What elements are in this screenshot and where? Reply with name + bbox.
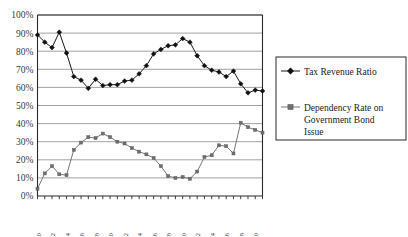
data-point-marker [123,142,126,145]
chart-container: 100%90%80%70%60%50%40%30%20%10%0% 197019… [0,0,408,236]
y-axis-tick-label: 70% [16,65,34,75]
data-point-marker [167,175,170,178]
x-axis-tick-label: 1974 [64,233,72,237]
data-point-marker [217,144,220,147]
legend-item-label[interactable]: Issue [304,127,324,137]
data-point-marker [203,156,206,159]
data-point-marker [174,176,177,179]
gridlines-group [38,15,263,178]
x-axis-tick-label: 1996 [223,233,231,237]
y-axis-tick-label: 40% [16,119,34,129]
data-point-marker [101,132,104,135]
data-point-marker [260,89,265,94]
data-point-marker [58,173,61,176]
data-point-marker [115,82,120,87]
x-axis-tick-label: 1998 [238,233,246,237]
legend-item-label[interactable]: Dependency Rate on [304,103,383,113]
data-point-marker [181,175,184,178]
data-point-marker [188,177,191,180]
data-point-marker [209,68,214,73]
y-axis-tick-label: 60% [16,83,34,93]
data-point-marker [87,136,90,139]
x-axis-tick-label: 1976 [78,233,86,237]
chart-svg: 100%90%80%70%60%50%40%30%20%10%0% 197019… [0,0,408,236]
tax-revenue-polyline [38,32,263,93]
x-axis-tick-label: 1992 [194,233,202,237]
data-point-marker [109,136,112,139]
x-axis-tick-label: 1980 [107,233,115,237]
y-axis-tick-label: 10% [16,173,34,183]
data-point-marker [253,88,258,93]
data-point-marker [80,141,83,144]
y-axis-tick-label: 30% [16,137,34,147]
legend-item-label[interactable]: Tax Revenue Ratio [304,67,377,77]
x-axis-tick-label: 1982 [122,233,130,237]
data-point-marker [246,126,249,129]
y-axis-tick-label: 80% [16,47,34,57]
legend-item-label[interactable]: Government Bond [304,115,375,125]
y-axis-tick-labels: 100%90%80%70%60%50%40%30%20%10%0% [11,10,33,201]
data-point-marker [36,187,39,190]
data-point-marker [145,153,148,156]
data-point-marker [210,154,213,157]
x-axis-tick-label: 1990 [180,233,188,237]
series-tax-revenue-line [38,32,263,93]
data-point-marker [261,131,264,134]
x-axis-tick-label: 1994 [209,233,217,237]
data-point-marker [159,165,162,168]
x-axis-tick-label: 1984 [136,233,144,237]
data-point-marker [57,30,62,35]
data-point-marker [217,70,222,75]
x-axis-tick-label: 1970 [35,233,43,237]
x-axis-tick-labels: 1970197219741976197819801982198419861988… [35,233,261,237]
data-point-marker [65,174,68,177]
data-point-marker [94,137,97,140]
data-point-marker [166,43,171,48]
data-point-marker [188,40,193,45]
x-axis-tick-label: 2000 [252,233,260,237]
data-point-marker [239,121,242,124]
data-point-marker [122,79,127,84]
data-point-marker [196,170,199,173]
data-point-marker [116,140,119,143]
y-axis-tick-label: 20% [16,155,34,165]
x-axis-tick-label: 1978 [93,233,101,237]
data-point-marker [151,52,156,57]
x-axis-tick-label: 1986 [151,233,159,237]
data-point-marker [138,150,141,153]
data-point-marker [51,165,54,168]
data-point-marker [152,156,155,159]
square-marker-icon [288,104,293,109]
dependency-rate-polyline [38,123,263,189]
chart-legend: Tax Revenue RatioDependency Rate onGover… [276,57,406,140]
series-dependency-rate-line [38,123,263,189]
data-point-marker [232,152,235,155]
data-point-marker [130,147,133,150]
y-axis-tick-label: 0% [21,191,34,201]
data-point-marker [108,82,113,87]
y-axis-tick-label: 100% [11,10,33,20]
data-point-marker [71,74,76,79]
data-point-marker [254,128,257,131]
data-point-marker [225,145,228,148]
x-axis-tick-label: 1988 [165,233,173,237]
data-point-marker [72,148,75,151]
data-point-marker [43,172,46,175]
y-axis-tick-label: 50% [16,101,34,111]
y-axis-tick-label: 90% [16,29,34,39]
x-axis-tick-label: 1972 [49,233,57,237]
